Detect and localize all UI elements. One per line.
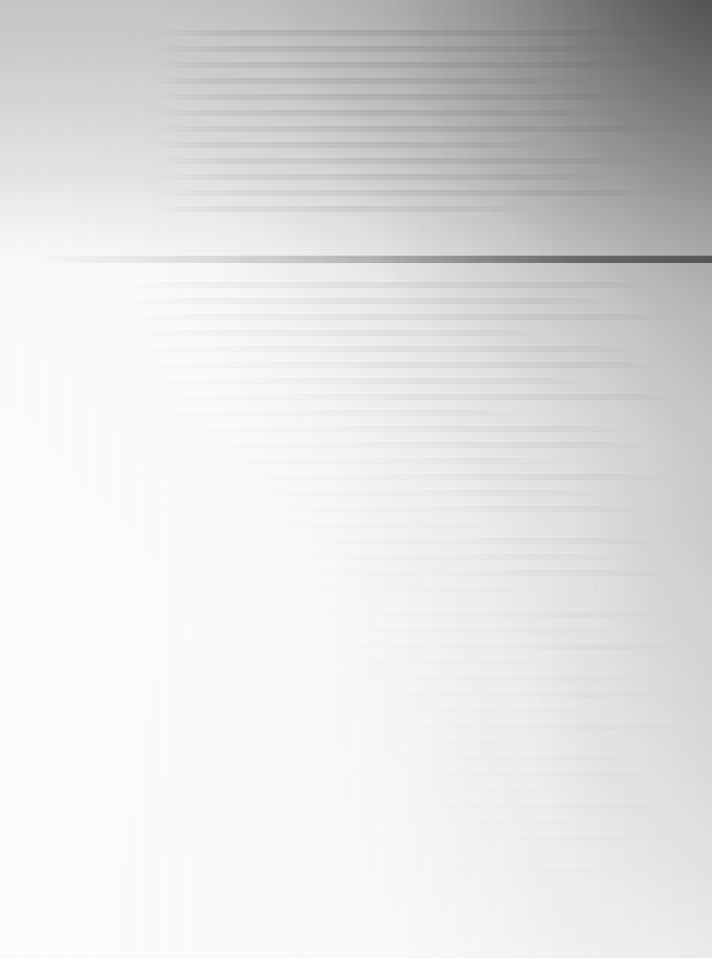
paper-grain-texture — [0, 0, 712, 958]
document-page — [0, 0, 712, 958]
